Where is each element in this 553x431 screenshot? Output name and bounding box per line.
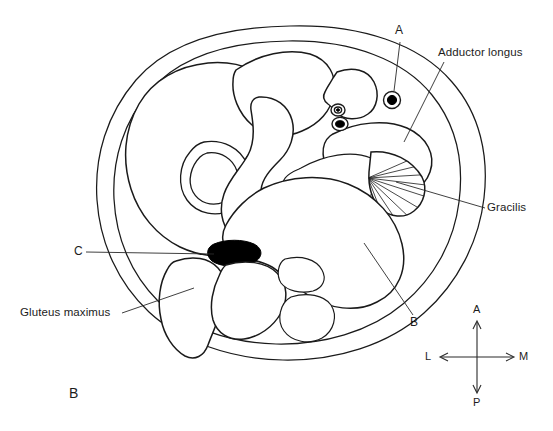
callout-label-gluteus-maximus: Gluteus maximus <box>20 307 110 319</box>
panel-label: B <box>69 386 78 400</box>
cross-section-svg <box>0 0 553 431</box>
compass-label-anterior: A <box>473 304 480 315</box>
callout-label-c: C <box>74 245 83 257</box>
vessel-superficial-medial <box>384 92 401 109</box>
compass-label-posterior: P <box>473 397 480 408</box>
vessel-femoral-vein <box>332 117 348 130</box>
compass-label-lateral: L <box>425 351 431 362</box>
vessel-femoral-artery <box>331 104 345 116</box>
callout-label-gracilis: Gracilis <box>487 202 526 214</box>
callout-label-b: B <box>410 316 418 328</box>
callout-label-a: A <box>395 24 403 36</box>
anatomical-figure: A Adductor longus Gracilis B C Gluteus m… <box>0 0 553 431</box>
callout-label-adductor-longus: Adductor longus <box>438 47 523 59</box>
orientation-compass <box>440 321 514 393</box>
compass-label-medial: M <box>519 351 528 362</box>
